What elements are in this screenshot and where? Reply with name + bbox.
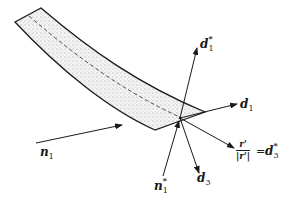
label-n1-star: n1* xyxy=(154,178,172,195)
origin-point xyxy=(179,117,182,120)
label-equals: = xyxy=(256,145,265,158)
n1-star-arrow xyxy=(163,121,179,176)
label-d3-star: d3* xyxy=(265,143,283,160)
d3-arrow xyxy=(180,118,199,173)
n1-arrow xyxy=(36,125,122,143)
label-r-ratio-fraction: r' |r'| xyxy=(236,140,250,161)
label-n1: n1 xyxy=(40,146,54,161)
rod-band xyxy=(15,8,205,130)
label-d1-star: d1* xyxy=(200,36,218,53)
label-d3: d3 xyxy=(197,172,210,187)
label-d1: d1 xyxy=(240,98,253,113)
d3-star-arrow xyxy=(180,118,234,148)
